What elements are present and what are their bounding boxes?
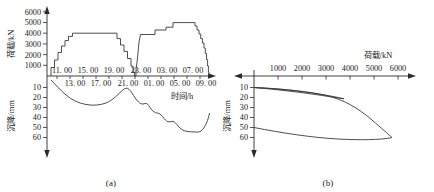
panel-b-cycle2-unloading-curve xyxy=(254,128,392,140)
panel-a-caption: (a) xyxy=(0,178,222,188)
panel-b-settlement-tick-30: 30 xyxy=(240,103,248,112)
panel-a-time-label-2100: 21. 00 xyxy=(118,79,138,88)
panel-a-settlement-axis-title: 沉降/mm xyxy=(6,100,16,132)
panel-a-time-label-0500: 05. 00 xyxy=(170,79,190,88)
panel-b-load-tick-4000: 4000 xyxy=(342,64,358,73)
panel-a-load-tick-2000: 2000 xyxy=(25,51,41,60)
panel-a-time-label-0900: 09. 00 xyxy=(196,79,216,88)
panel-a-load-settlement-time: 1000 2000 3000 4000 5000 6000 荷载/kN 10 2… xyxy=(0,0,222,192)
panel-b-settlement-axis-title: 沉降/mm xyxy=(222,100,232,132)
panel-b-load-axis-left-arrow-icon xyxy=(234,73,242,78)
panel-a-settlement-tick-20: 20 xyxy=(33,93,41,102)
panel-b-settlement-tick-50: 50 xyxy=(240,123,248,132)
panel-a-time-label-1700: 17. 00 xyxy=(91,79,111,88)
panel-a-time-label-1300: 13. 00 xyxy=(65,79,85,88)
panel-b-settlement-axis-arrow-icon xyxy=(251,150,256,158)
panel-a-time-label-0700: 07. 00 xyxy=(183,66,203,75)
panel-a-time-label-0300: 03. 00 xyxy=(157,66,177,75)
panel-a-plot: 1000 2000 3000 4000 5000 6000 荷载/kN 10 2… xyxy=(0,0,222,170)
panel-a-settlement-tick-40: 40 xyxy=(33,113,41,122)
figure-container: 1000 2000 3000 4000 5000 6000 荷载/kN 10 2… xyxy=(0,0,434,192)
panel-b-load-axis-title: 荷载/kN xyxy=(364,50,393,60)
panel-b-load-settlement: 1000 2000 3000 4000 5000 6000 荷载/kN 10 2… xyxy=(222,0,434,192)
panel-b-settlement-tick-40: 40 xyxy=(240,113,248,122)
panel-b-load-tick-3000: 3000 xyxy=(318,64,334,73)
panel-a-time-label-2300: 23. 00 xyxy=(131,66,151,75)
panel-a-settlement-axis-arrow-icon xyxy=(44,150,49,158)
panel-a-load-axis-arrow-icon xyxy=(44,6,49,14)
panel-a-time-axis-title: 时间/h xyxy=(171,91,194,101)
panel-b-plot: 1000 2000 3000 4000 5000 6000 荷载/kN 10 2… xyxy=(222,0,434,170)
panel-a-settlement-tick-10: 10 xyxy=(33,83,41,92)
panel-a-settlement-tick-30: 30 xyxy=(33,103,41,112)
panel-a-settlement-tick-50: 50 xyxy=(33,123,41,132)
panel-a-load-tick-1000: 1000 xyxy=(25,61,41,70)
panel-a-time-label-1900: 19. 00 xyxy=(104,66,124,75)
panel-a-settlement-tick-60: 60 xyxy=(33,133,41,142)
panel-b-settlement-tick-20: 20 xyxy=(240,93,248,102)
panel-a-load-tick-3000: 3000 xyxy=(25,40,41,49)
panel-b-settlement-tick-10: 10 xyxy=(240,83,248,92)
panel-b-load-tick-2000: 2000 xyxy=(294,64,310,73)
panel-a-time-label-1500: 15. 00 xyxy=(78,66,98,75)
panel-a-load-tick-4000: 4000 xyxy=(25,29,41,38)
panel-b-load-tick-1000: 1000 xyxy=(270,64,286,73)
panel-a-load-tick-5000: 5000 xyxy=(25,18,41,27)
panel-b-caption: (b) xyxy=(222,178,434,188)
panel-b-settlement-tick-60: 60 xyxy=(240,133,248,142)
panel-a-load-ticks xyxy=(43,12,47,66)
panel-b-settlement-ticks xyxy=(250,88,254,138)
panel-b-load-ticks xyxy=(278,76,398,80)
panel-b-load-tick-6000: 6000 xyxy=(390,64,406,73)
panel-a-settlement-ticks xyxy=(43,88,47,138)
panel-b-cycle2-loading-curve xyxy=(254,88,392,138)
panel-a-load-axis-title: 荷载/kN xyxy=(6,30,16,59)
panel-b-load-tick-5000: 5000 xyxy=(366,64,382,73)
panel-b-load-axis-right-arrow-icon xyxy=(408,73,416,78)
panel-a-load-tick-6000: 6000 xyxy=(25,8,41,17)
panel-a-time-label-0100: 01. 00 xyxy=(144,79,164,88)
